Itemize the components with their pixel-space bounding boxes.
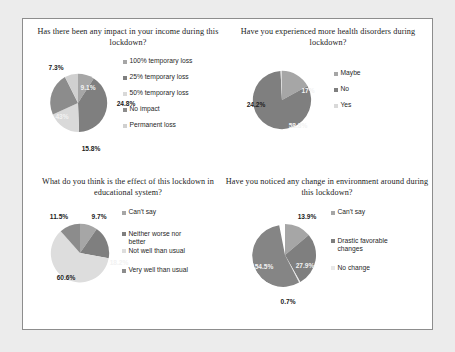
legend-item[interactable]: No change [331,264,427,273]
slide-panel: Has there been any impact in your income… [22,18,433,330]
pie-label-environment-2: 0.7% [280,298,295,305]
legend-swatch-icon [123,76,127,80]
legend-item[interactable]: 100% temporary loss [123,57,225,66]
legend-label: Can't say [338,208,366,217]
legend-item[interactable]: Maybe [334,69,420,78]
pie-label-income-4: 7.3% [48,64,63,71]
legend-label: No impact [130,105,160,114]
legend-item[interactable]: Can't say [122,208,226,217]
legend-label: 50% temporary loss [130,89,189,98]
pie-label-environment-0: 13.9% [298,213,317,220]
legend-label: 100% temporary loss [130,57,193,66]
legend-item[interactable]: Yes [334,101,420,110]
legend-label: Neither worse nor better [129,230,182,247]
pie-income-impact: 9.1% 24.8% 15.8% 43% 7.3% [47,72,109,134]
legend-label: Not well than usual [129,247,186,256]
chart-title-health-disorders: Have you experienced more health disorde… [229,27,427,48]
pie-svg-environment-change [252,222,318,288]
legend-environment-change: Can't say Drastic favorable changes No c… [331,208,427,272]
pie-svg-income-impact [47,72,109,134]
legend-label: Maybe [341,69,361,78]
legend-swatch-icon [122,249,126,253]
pie-label-education-0: 9.7% [91,213,106,220]
legend-swatch-icon [123,60,127,64]
pie-label-income-0: 9.1% [80,84,95,91]
legend-swatch-icon [122,211,126,215]
chart-title-education-effect: What do you think is the effect of this … [29,177,227,198]
legend-label: Permanent loss [130,121,176,130]
legend-swatch-icon [123,108,127,112]
legend-item[interactable]: Permanent loss [123,121,225,130]
legend-swatch-icon [331,266,335,270]
pie-label-health-0: 17% [301,87,314,94]
legend-swatch-icon [122,232,126,236]
legend-label: No [341,85,350,94]
pie-label-health-1: 58.8% [289,122,308,129]
pie-label-environment-1: 27.9% [296,262,315,269]
pie-label-health-2: 24.2% [247,101,266,108]
chart-environment-change: Have you noticed any change in environme… [224,177,430,322]
chart-title-environment-change: Have you noticed any change in environme… [224,177,430,198]
legend-education-effect: Can't say Neither worse nor better Not w… [122,208,226,275]
pie-environment-change: 13.9% 27.9% 0.7% 54.5% [252,222,318,288]
pie-label-education-2: 60.6% [57,274,76,281]
pie-label-education-3: 11.5% [50,213,68,220]
legend-swatch-icon [122,269,126,273]
legend-item[interactable]: Drastic favorable changes [331,237,427,254]
pie-label-environment-3: 54.5% [255,263,274,270]
legend-income-impact: 100% temporary loss 25% temporary loss 5… [123,57,225,130]
legend-label: 25% temporary loss [130,73,189,82]
chart-health-disorders: Have you experienced more health disorde… [229,27,427,169]
legend-item[interactable]: 25% temporary loss [123,73,225,82]
pie-label-income-3: 43% [55,113,68,120]
legend-swatch-icon [334,88,338,92]
legend-swatch-icon [123,124,127,128]
legend-swatch-icon [331,239,335,243]
chart-title-income-impact: Has there been any impact in your income… [29,27,227,48]
legend-label: Drastic favorable changes [338,237,388,254]
legend-item[interactable]: Not well than usual [122,247,226,256]
pie-health-disorders: 17% 58.8% 24.2% [251,69,313,131]
legend-item[interactable]: No [334,85,420,94]
legend-label: Very well than usual [129,266,188,275]
legend-item[interactable]: No impact [123,105,225,114]
legend-swatch-icon [334,104,338,108]
legend-label: Can't say [129,208,157,217]
legend-item[interactable]: Neither worse nor better [122,230,226,247]
legend-item[interactable]: 50% temporary loss [123,89,225,98]
legend-swatch-icon [331,211,335,215]
legend-label: No change [338,264,370,273]
legend-item[interactable]: Can't say [331,208,427,217]
legend-swatch-icon [334,72,338,76]
chart-income-impact: Has there been any impact in your income… [29,27,227,169]
legend-health-disorders: Maybe No Yes [334,69,420,110]
pie-label-income-2: 15.8% [82,145,101,152]
legend-swatch-icon [123,92,127,96]
legend-item[interactable]: Very well than usual [122,266,226,275]
chart-education-effect: What do you think is the effect of this … [29,177,227,322]
pie-education-effect: 9.7% 18.2% 60.6% 11.5% [49,222,111,284]
legend-label: Yes [341,101,352,110]
